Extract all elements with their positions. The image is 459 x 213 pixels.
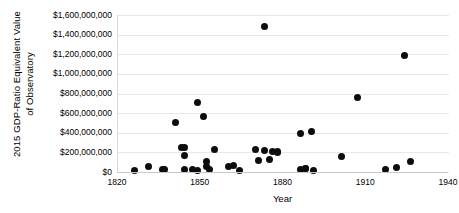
y-tick-label: $0: [36, 168, 112, 177]
data-point: [200, 113, 207, 120]
gridline: [118, 133, 449, 134]
data-point: [401, 52, 408, 59]
data-point: [181, 144, 188, 151]
data-point: [338, 153, 345, 160]
gridline: [118, 113, 449, 114]
scatter-chart: 2015 GDP-Ratio Equivalent Value of Obser…: [0, 0, 459, 213]
data-point: [297, 130, 304, 137]
data-point: [194, 99, 201, 106]
data-point: [354, 94, 361, 101]
x-tick-label: 1910: [340, 177, 390, 187]
data-point: [255, 157, 262, 164]
y-tick-label: $400,000,000: [36, 128, 112, 137]
x-tick-label: 1880: [258, 177, 308, 187]
data-point: [181, 152, 188, 159]
data-point: [308, 128, 315, 135]
y-tick-label: $800,000,000: [36, 89, 112, 98]
plot-area: [117, 15, 449, 172]
data-point: [302, 165, 309, 172]
gridline: [118, 35, 449, 36]
data-point: [407, 158, 414, 165]
data-point: [393, 164, 400, 171]
y-tick-label: $200,000,000: [36, 148, 112, 157]
y-tick-label: $1,400,000,000: [36, 30, 112, 39]
x-tick-label: 1940: [423, 177, 459, 187]
x-axis-title: Year: [117, 193, 448, 205]
y-tick-label: $1,000,000,000: [36, 69, 112, 78]
x-axis-tick-labels: 18201850188019101940: [0, 177, 459, 191]
gridline: [118, 152, 449, 153]
data-point: [266, 156, 273, 163]
gridline: [118, 15, 449, 16]
data-point: [261, 23, 268, 30]
x-axis-line: [117, 172, 448, 173]
gridline: [118, 54, 449, 55]
y-tick-label: $600,000,000: [36, 109, 112, 118]
x-tick-label: 1850: [175, 177, 225, 187]
data-point: [172, 119, 179, 126]
gridline: [118, 94, 449, 95]
y-tick-label: $1,600,000,000: [36, 11, 112, 20]
data-point: [145, 163, 152, 170]
x-tick-label: 1820: [92, 177, 142, 187]
y-tick-label: $1,200,000,000: [36, 50, 112, 59]
gridline: [118, 74, 449, 75]
